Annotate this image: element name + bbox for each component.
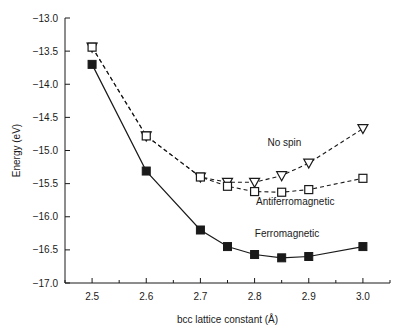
data-point-marker	[224, 243, 232, 251]
x-tick-label: 2.8	[248, 291, 262, 302]
x-axis-title: bcc lattice constant (Å)	[177, 313, 278, 325]
data-point-marker	[196, 226, 204, 234]
data-point-marker	[224, 182, 232, 190]
data-point-marker	[278, 254, 286, 262]
data-point-marker	[88, 60, 96, 68]
data-point-marker	[278, 188, 286, 196]
x-tick-label: 2.5	[85, 291, 99, 302]
energy-vs-lattice-constant-chart: −13.0−13.5−14.0−14.5−15.0−15.5−16.0−16.5…	[0, 0, 403, 335]
series-label-ferromagnetic: Ferromagnetic	[255, 228, 319, 239]
y-axis-title: Energy (eV)	[11, 124, 22, 177]
data-point-marker	[305, 253, 313, 261]
data-point-marker	[251, 251, 259, 259]
series-label-no-spin: No spin	[267, 137, 301, 148]
series-label-antiferromagnetic: Antiferromagnetic	[256, 196, 334, 207]
plot-background	[0, 0, 403, 335]
y-tick-label: −15.0	[33, 145, 59, 156]
x-tick-label: 2.7	[193, 291, 207, 302]
data-point-marker	[142, 132, 150, 140]
y-tick-label: −14.0	[33, 79, 59, 90]
data-point-marker	[196, 173, 204, 181]
y-tick-label: −14.5	[33, 112, 59, 123]
data-point-marker	[88, 43, 96, 51]
x-tick-label: 3.0	[356, 291, 370, 302]
y-tick-label: −13.5	[33, 46, 59, 57]
y-tick-label: −16.0	[33, 211, 59, 222]
y-tick-label: −15.5	[33, 178, 59, 189]
x-tick-label: 2.6	[139, 291, 153, 302]
data-point-marker	[359, 174, 367, 182]
data-point-marker	[305, 186, 313, 194]
y-tick-label: −13.0	[33, 13, 59, 24]
y-tick-label: −16.5	[33, 244, 59, 255]
data-point-marker	[142, 167, 150, 175]
data-point-marker	[359, 243, 367, 251]
data-point-marker	[251, 188, 259, 196]
x-tick-label: 2.9	[302, 291, 316, 302]
chart-figure: −13.0−13.5−14.0−14.5−15.0−15.5−16.0−16.5…	[0, 0, 403, 335]
y-tick-label: −17.0	[33, 278, 59, 289]
